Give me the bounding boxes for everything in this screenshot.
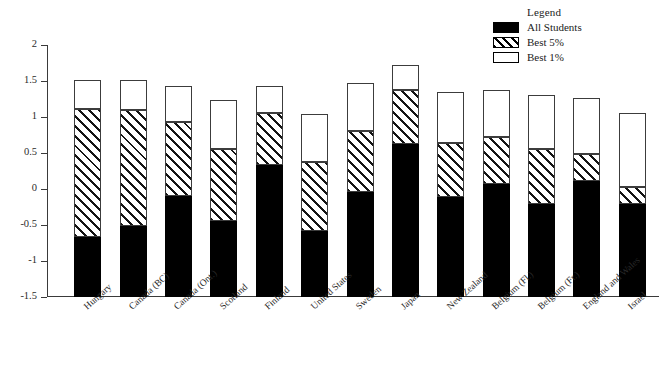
y-axis-tick-label: 1 [7,110,37,121]
bar-segment-all-students [120,226,147,297]
bar-segment-all-students [301,231,328,297]
bar-segment-best-5 [120,110,147,227]
bar-segment-best-5 [347,131,374,192]
bar-segment-best-1 [437,92,464,143]
bar-segment-best-1 [483,90,510,138]
y-axis-tick [41,45,47,46]
y-axis-tick-label: 0.5 [7,146,37,157]
y-axis-tick [41,189,47,190]
bar [392,65,419,144]
bar-segment-best-1 [74,80,101,110]
legend-label: All Students [527,21,582,33]
bar-segment-best-1 [347,83,374,131]
bar [347,83,374,192]
bar-segment-best-5 [256,113,283,166]
bar-segment-best-5 [573,154,600,181]
bar-segment-best-1 [528,95,555,149]
bar [120,80,147,227]
bar-segment-best-5 [165,122,192,196]
bar-segment-best-1 [619,113,646,186]
bar-segment-all-students [619,204,646,297]
bar-segment-best-5 [74,109,101,237]
y-axis-tick-label: -1.5 [7,290,37,301]
bar [437,92,464,197]
y-axis-tick-label: 2 [7,38,37,49]
bar-segment-best-5 [392,90,419,145]
bar-segment-best-5 [301,162,328,231]
bar-segment-best-1 [210,100,237,150]
bar-segment-all-students [210,221,237,297]
bar-segment-best-5 [483,137,510,184]
bar [210,100,237,221]
bar-segment-best-1 [165,86,192,122]
y-axis-tick [41,261,47,262]
bar-segment-all-students [437,197,464,297]
y-axis-tick-label: 0 [7,182,37,193]
bar [301,114,328,231]
bar-segment-all-students [528,204,555,297]
y-axis-tick [41,81,47,82]
solid-black-swatch-icon [493,22,519,33]
bar-segment-best-1 [573,98,600,155]
bar-segment-best-5 [437,143,464,197]
legend-title: Legend [527,6,663,18]
y-axis-tick [41,297,47,298]
bar-segment-best-1 [392,65,419,89]
y-axis-tick-label: -0.5 [7,218,37,229]
plot-area: 21.510.50-0.5-1-1.5 [47,45,659,297]
y-axis-line [47,45,48,297]
bar-segment-best-5 [210,149,237,220]
bar [165,86,192,196]
bar-segment-best-1 [256,86,283,113]
bar-segment-all-students [483,184,510,297]
y-axis-tick-label: -1 [7,254,37,265]
bar-segment-best-5 [528,149,555,204]
legend-item-all-students: All Students [493,20,663,34]
bar [74,80,101,238]
y-axis-tick [41,117,47,118]
bar-segment-all-students [74,237,101,297]
bar-segment-all-students [256,165,283,297]
bar [619,113,646,204]
y-axis-tick-label: 1.5 [7,74,37,85]
bar-segment-all-students [347,192,374,297]
bar-segment-all-students [392,144,419,297]
y-axis-tick [41,153,47,154]
bar-segment-best-1 [120,80,147,110]
bar [528,95,555,204]
bar [256,86,283,165]
bar-segment-best-5 [619,187,646,204]
chart-container: Legend All Students Best 5% Best 1% 21.5… [0,0,669,379]
bar-segment-best-1 [301,114,328,162]
bar-segment-all-students [165,196,192,297]
bar [483,90,510,184]
bar [573,98,600,182]
y-axis-tick [41,225,47,226]
